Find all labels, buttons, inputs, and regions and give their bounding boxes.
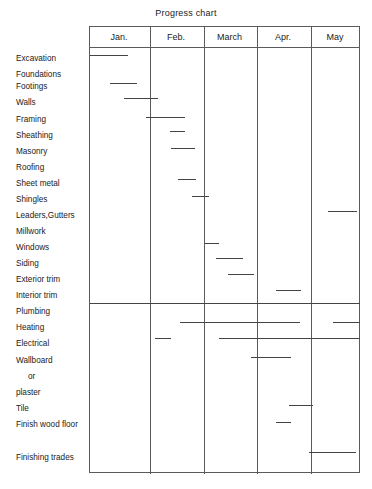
task-bar-finish-wood-floor xyxy=(276,422,291,423)
task-label-plumbing: Plumbing xyxy=(16,307,88,316)
task-bar-shingles xyxy=(192,196,209,197)
task-bar-framing xyxy=(146,117,185,118)
task-bar-windows xyxy=(205,243,219,244)
task-label-sheathing: Sheathing xyxy=(16,131,88,140)
task-label-sheet-metal: Sheet metal xyxy=(16,179,88,188)
column-divider-4 xyxy=(311,27,312,474)
task-bar-sheet-metal xyxy=(178,179,196,180)
task-label-shingles: Shingles xyxy=(16,195,88,204)
task-label-roofing: Roofing xyxy=(16,163,88,172)
task-bar-electrical-a xyxy=(155,338,171,339)
task-label-footings: Footings xyxy=(16,82,88,91)
task-label-plaster: plaster xyxy=(16,388,88,397)
chart-title: Progress chart xyxy=(0,8,372,18)
task-label-finishing-trades: Finishing trades xyxy=(16,453,88,462)
task-label-windows: Windows xyxy=(16,243,88,252)
task-label-electrical: Electrical xyxy=(16,339,88,348)
task-label-heating: Heating xyxy=(16,323,88,332)
task-bar-siding xyxy=(216,258,243,259)
task-bar-exterior-trim xyxy=(228,274,254,275)
task-label-wallboard: Wallboard xyxy=(16,356,88,365)
task-bar-wallboard xyxy=(251,357,291,358)
header-separator-rule xyxy=(89,47,360,48)
task-bar-heating-a xyxy=(180,322,300,323)
month-header-march: March xyxy=(203,29,256,45)
task-label-millwork: Millwork xyxy=(16,227,88,236)
task-bar-finishing-trades xyxy=(309,452,356,453)
column-divider-1 xyxy=(150,27,151,474)
task-bar-electrical-b xyxy=(219,338,360,339)
task-bar-masonry xyxy=(171,148,195,149)
task-label-or: or xyxy=(28,372,100,381)
task-label-excavation: Excavation xyxy=(16,54,88,63)
task-bar-excavation xyxy=(90,55,128,56)
task-label-leaders-gutters: Leaders,Gutters xyxy=(16,211,88,220)
task-label-finish-wood-floor: Finish wood floor xyxy=(16,420,88,429)
month-header-may: May xyxy=(310,29,360,45)
task-label-framing: Framing xyxy=(16,115,88,124)
month-header-jan: Jan. xyxy=(89,29,149,45)
month-header-apr: Apr. xyxy=(256,29,310,45)
task-label-walls: Walls xyxy=(16,98,88,107)
task-label-tile: Tile xyxy=(16,404,88,413)
task-bar-walls xyxy=(124,98,158,99)
task-bar-tile xyxy=(289,405,313,406)
task-bar-plumbing xyxy=(90,303,360,304)
task-bar-heating-b xyxy=(333,322,360,323)
progress-chart: Progress chart Jan.Feb.MarchApr.May Exca… xyxy=(0,0,372,489)
task-label-siding: Siding xyxy=(16,259,88,268)
chart-grid-frame xyxy=(89,26,360,473)
task-label-exterior-trim: Exterior trim xyxy=(16,275,88,284)
month-header-feb: Feb. xyxy=(149,29,203,45)
task-label-interior-trim: Interior trim xyxy=(16,291,88,300)
task-label-masonry: Masonry xyxy=(16,147,88,156)
task-bar-leaders-gutters xyxy=(328,211,357,212)
column-divider-3 xyxy=(257,27,258,474)
task-label-foundations: Foundations xyxy=(16,70,88,79)
column-divider-2 xyxy=(204,27,205,474)
task-bar-footings xyxy=(110,83,137,84)
task-bar-interior-trim xyxy=(276,290,301,291)
task-bar-sheathing xyxy=(170,131,185,132)
